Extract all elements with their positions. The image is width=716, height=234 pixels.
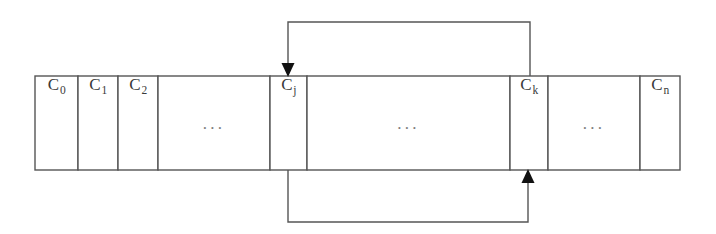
cell-box-c2[interactable] xyxy=(118,76,158,170)
arrowhead-down-icon xyxy=(282,63,295,77)
cell-box-gap2[interactable] xyxy=(307,76,510,170)
diagram-graphics xyxy=(0,0,716,234)
feedback-arrow-ck-to-cj xyxy=(282,22,531,77)
cell-box-cj[interactable] xyxy=(270,76,307,170)
feedback-arrow-cj-to-ck xyxy=(288,169,535,222)
cell-box-ck[interactable] xyxy=(510,76,548,170)
feedback-arrow-cj-to-ck-line xyxy=(288,170,528,222)
arrowhead-up-icon xyxy=(522,169,535,183)
cell-box-c1[interactable] xyxy=(78,76,118,170)
cell-box-gap1[interactable] xyxy=(158,76,270,170)
cell-strip xyxy=(35,76,680,170)
diagram-canvas: C0C1C2...Cj...Ck...Cn xyxy=(0,0,716,234)
cell-box-c0[interactable] xyxy=(35,76,78,170)
cell-box-gap3[interactable] xyxy=(548,76,640,170)
cell-box-cn[interactable] xyxy=(640,76,680,170)
feedback-arrow-ck-to-cj-line xyxy=(288,22,530,76)
